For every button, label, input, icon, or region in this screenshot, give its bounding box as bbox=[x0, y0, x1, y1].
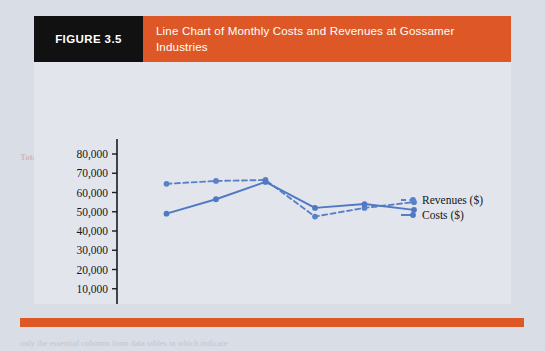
line-chart: 010,00020,00030,00040,00050,00060,00070,… bbox=[34, 62, 511, 304]
chart-series bbox=[164, 177, 417, 219]
figure-body: 010,00020,00030,00040,00050,00060,00070,… bbox=[34, 62, 511, 304]
data-point bbox=[213, 178, 219, 184]
figure-card: FIGURE 3.5 Line Chart of Monthly Costs a… bbox=[34, 16, 511, 304]
data-point bbox=[164, 211, 170, 217]
y-tick-label: 30,000 bbox=[76, 244, 108, 257]
y-tick-label: 50,000 bbox=[76, 206, 108, 219]
data-point bbox=[312, 214, 318, 220]
data-point bbox=[312, 205, 318, 211]
bleed-line-essential: only the essential columns from data tab… bbox=[20, 338, 228, 348]
y-tick-label: 20,000 bbox=[76, 264, 108, 277]
data-point bbox=[213, 196, 219, 202]
figure-title: Line Chart of Monthly Costs and Revenues… bbox=[143, 16, 511, 62]
chart-axes bbox=[117, 139, 414, 304]
series-line-revenues bbox=[167, 180, 415, 217]
data-point bbox=[263, 179, 269, 185]
bottom-orange-rule bbox=[20, 318, 524, 327]
data-point bbox=[411, 207, 417, 213]
legend-label: Revenues ($) bbox=[422, 194, 483, 207]
y-axis-ticks: 010,00020,00030,00040,00050,00060,00070,… bbox=[76, 148, 117, 304]
chart-svg: 010,00020,00030,00040,00050,00060,00070,… bbox=[34, 62, 511, 304]
y-tick-label: 10,000 bbox=[76, 283, 108, 296]
figure-header: FIGURE 3.5 Line Chart of Monthly Costs a… bbox=[34, 16, 511, 62]
legend-label: Costs ($) bbox=[422, 209, 464, 222]
y-tick-label: 40,000 bbox=[76, 225, 108, 238]
data-point bbox=[164, 181, 170, 187]
y-tick-label: 70,000 bbox=[76, 167, 108, 180]
y-tick-label: 60,000 bbox=[76, 187, 108, 200]
figure-number-tag: FIGURE 3.5 bbox=[34, 16, 143, 62]
y-tick-label: 80,000 bbox=[76, 148, 108, 161]
y-tick-label: 0 bbox=[102, 302, 108, 304]
legend-marker bbox=[410, 212, 416, 218]
legend-marker bbox=[410, 197, 416, 203]
data-point bbox=[362, 201, 368, 207]
